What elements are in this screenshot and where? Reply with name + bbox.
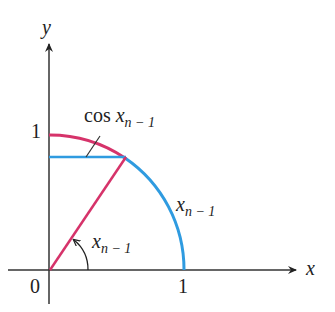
cos-label: cos xn − 1 <box>84 104 155 127</box>
angle-label: xn − 1 <box>92 230 131 253</box>
origin-label: 0 <box>30 275 40 298</box>
angle-var: x <box>92 230 101 252</box>
arc-label: xn − 1 <box>176 193 215 216</box>
arc-var: x <box>176 193 185 215</box>
cos-sub: n − 1 <box>125 115 155 130</box>
x-tick-1: 1 <box>178 275 188 298</box>
cos-text: cos <box>84 104 111 126</box>
y-tick-1: 1 <box>31 120 41 143</box>
x-axis-label: x <box>306 257 315 280</box>
y-axis-label: y <box>42 16 51 39</box>
cos-var: x <box>116 104 125 126</box>
arc-sub: n − 1 <box>185 204 215 219</box>
angle-arc <box>74 240 88 270</box>
angle-sub: n − 1 <box>101 241 131 256</box>
diagram-canvas <box>0 0 335 312</box>
